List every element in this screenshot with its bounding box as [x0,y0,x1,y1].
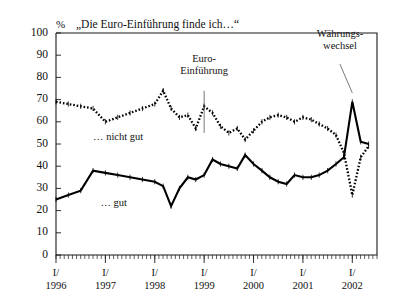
annotation-leader-2 [340,64,352,93]
series-label-2: … gut [100,197,127,208]
chart-title: „Die Euro-Einführung finde ich…“ [76,18,239,31]
chart-annotations: Euro-EinführungWährungs-wechsel [180,28,364,132]
x-tick-label-year: 1997 [95,280,116,291]
x-tick-label-year: 2001 [292,280,313,291]
x-tick-label-year: 1996 [46,280,67,291]
y-axis-labels: 0102030405060708090100 [31,26,49,260]
series-line-2 [56,102,369,206]
x-tick-label-year: 1999 [194,280,215,291]
x-tick-label-quarter: I/ [201,267,207,278]
data-series [56,88,369,209]
x-axis-major-ticks [56,255,352,263]
chart-container: % „Die Euro-Einführung finde ich…“ 01020… [0,0,416,297]
y-tick-label: 90 [37,48,49,60]
x-tick-label-year: 2002 [342,280,363,291]
annotation-text-2: Währungs- [317,28,364,39]
series-label-1: … nicht gut [93,131,143,142]
y-tick-label: 40 [37,159,49,171]
x-tick-label-quarter: I/ [300,267,306,278]
y-axis-ticks [56,33,61,255]
annotation-text-2: wechsel [323,40,357,51]
y-unit-label: % [56,18,65,30]
series-line-1 [56,91,369,195]
x-axis-minor-ticks [56,255,377,259]
x-tick-label-year: 1998 [144,280,165,291]
y-tick-label: 80 [37,70,49,82]
y-tick-label: 20 [37,203,49,215]
x-tick-label-quarter: I/ [102,267,108,278]
y-tick-label: 30 [37,181,49,193]
y-tick-label: 70 [37,92,49,104]
annotation-text-1: Einführung [180,65,229,76]
x-tick-label-quarter: I/ [349,267,355,278]
annotation-text-1: Euro- [192,53,216,64]
x-axis-labels: I/1996I/1997I/1998I/1999I/2000I/2001I/20… [46,267,363,291]
x-tick-label-quarter: I/ [152,267,158,278]
y-tick-label: 60 [37,114,49,126]
euro-opinion-line-chart: % „Die Euro-Einführung finde ich…“ 01020… [0,0,416,297]
series-inline-labels: … nicht gut… gut [93,131,143,209]
x-tick-label-quarter: I/ [250,267,256,278]
y-tick-label: 10 [37,225,49,237]
x-tick-label-year: 2000 [243,280,264,291]
x-tick-label-quarter: I/ [53,267,59,278]
y-tick-label: 100 [31,26,49,38]
y-tick-label: 50 [37,137,49,149]
y-tick-label: 0 [42,248,48,260]
